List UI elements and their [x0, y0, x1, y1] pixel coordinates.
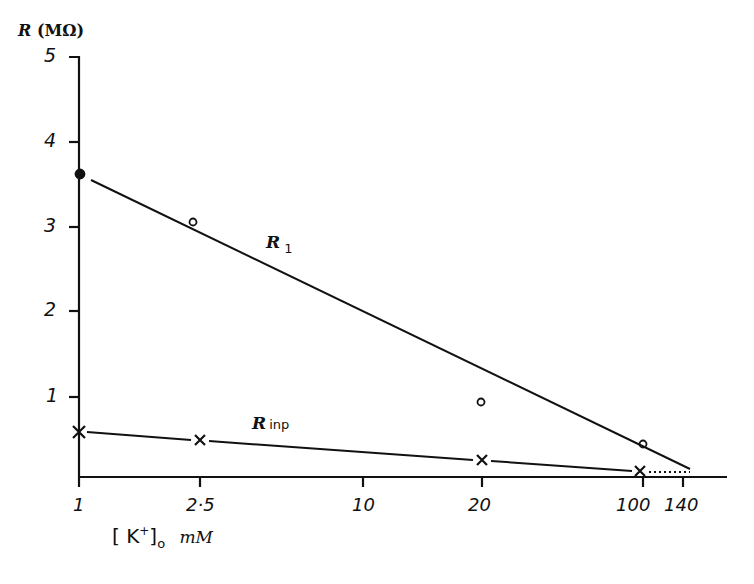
x-axis-unit: mM	[179, 527, 213, 547]
y-axis	[69, 57, 79, 477]
x-axis-bracket: ]	[149, 524, 157, 548]
x-tick-label-1: 1	[73, 494, 84, 515]
r1-symbol: R	[266, 232, 280, 252]
y-tick-label-4: 4	[44, 129, 56, 151]
rinp-point	[635, 466, 645, 476]
y-axis-symbol: R	[18, 21, 31, 40]
x-axis-label: [ K+]o mM	[112, 524, 213, 551]
y-tick-label-5: 5	[44, 44, 56, 66]
x-tick-label-10: 10	[352, 494, 375, 515]
y-axis-unit: (MΩ)	[37, 21, 84, 40]
rinp-line	[87, 432, 690, 472]
y-axis-label: R (MΩ)	[18, 21, 84, 40]
y-tick-label-2: 2	[44, 298, 56, 320]
axes	[69, 57, 727, 487]
y-tick-label-1: 1	[46, 384, 58, 406]
x-axis-charge: +	[139, 524, 149, 538]
x-axis-subscript: o	[157, 536, 165, 551]
rinp-subscript: inp	[269, 417, 289, 432]
r1-point-filled	[76, 170, 85, 179]
x-tick-label-100: 100	[616, 494, 650, 515]
r1-point	[478, 399, 485, 406]
x-tick-label-140: 140	[664, 494, 698, 515]
x-tick-label-2.5: 2·5	[186, 494, 215, 515]
rinp-point	[477, 455, 487, 465]
r1-fit-line	[91, 180, 690, 469]
rinp-symbol: R	[252, 413, 266, 433]
y-tick-label-3: 3	[44, 214, 56, 236]
x-axis-ion: [ K	[112, 524, 139, 548]
series-label-r1: R1	[266, 232, 292, 252]
r1-point	[190, 219, 197, 226]
r1-subscript: 1	[284, 241, 292, 256]
x-tick-label-20: 20	[468, 494, 491, 515]
series-label-rinp: Rinp	[252, 413, 289, 433]
rinp-point	[195, 435, 205, 445]
